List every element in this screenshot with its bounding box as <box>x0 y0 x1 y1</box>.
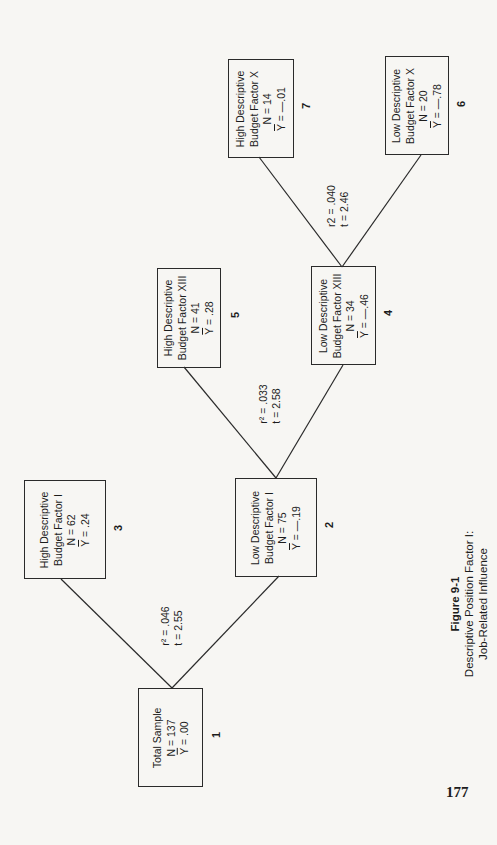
page-number: 177 <box>446 784 469 801</box>
ybar-symbol: Y <box>275 124 287 131</box>
node-2-y: Y = —.19 <box>290 490 304 564</box>
node-1-n: N = 137 <box>164 707 178 768</box>
edge-4-6 <box>342 155 421 267</box>
edge-2-4 <box>276 365 343 478</box>
node-1-y-value: = .00 <box>177 721 189 748</box>
node-3-y: Y = .24 <box>79 491 93 567</box>
node-7-line2: Budget Factor X <box>248 70 262 146</box>
ybar-symbol: Y <box>431 121 443 128</box>
ybar-symbol: Y <box>79 539 91 546</box>
node-3-box: High Descriptive Budget Factor I N = 62 … <box>24 480 106 579</box>
node-7-y-value: = —.01 <box>275 87 287 124</box>
ybar-symbol: Y <box>203 328 215 335</box>
figure-title-line1: Descriptive Position Factor I: <box>462 531 476 677</box>
node-2-number: 2 <box>323 522 335 528</box>
node-5-y: Y = .28 <box>203 276 217 361</box>
node-2-y-value: = —.19 <box>290 506 302 543</box>
node-4-line1: Low Descriptive <box>317 273 331 358</box>
node-2-line1: Low Descriptive <box>249 490 263 564</box>
figure-label: Figure 9-1 <box>448 531 462 677</box>
node-5-box: High Descriptive Budget Factor XIII N = … <box>157 268 221 368</box>
node-6-number: 6 <box>455 101 467 107</box>
node-6-box: Low Descriptive Budget Factor X N = 20 Y… <box>385 56 449 155</box>
node-6-y-value: = —.78 <box>431 84 443 121</box>
node-2-line2: Budget Factor I <box>263 490 277 564</box>
edge-1-3 <box>61 579 172 688</box>
node-4-y: Y = —.46 <box>357 273 371 358</box>
node-4-y-value: = —.46 <box>357 294 369 331</box>
node-2-box: Low Descriptive Budget Factor I N = 75 Y… <box>235 478 317 577</box>
node-4-line2: Budget Factor XIII <box>330 273 344 358</box>
node-1-number: 1 <box>210 732 222 738</box>
split-1-stats: r² = .046 t = 2.55 <box>159 606 185 645</box>
node-7-y: Y = —.01 <box>275 70 289 146</box>
node-1-line1: Total Sample <box>150 707 164 768</box>
node-5-line1: High Descriptive <box>162 276 176 361</box>
node-6-line2: Budget Factor X <box>404 68 418 144</box>
node-5-n: N = 41 <box>189 276 203 361</box>
node-6-y: Y = —.78 <box>431 68 445 144</box>
node-5-line2: Budget Factor XIII <box>176 276 190 361</box>
node-4-box: Low Descriptive Budget Factor XIII N = 3… <box>311 266 376 365</box>
node-2-n: N = 75 <box>276 490 290 564</box>
ybar-symbol: Y <box>357 331 369 338</box>
edge-1-2 <box>172 576 279 688</box>
node-7-number: 7 <box>300 103 312 109</box>
split-1-r2: r² = .046 <box>159 606 172 645</box>
node-3-line2: Budget Factor I <box>52 491 66 567</box>
node-4-number: 4 <box>382 310 394 316</box>
node-3-number: 3 <box>112 525 124 531</box>
node-6-n: N = 20 <box>417 68 431 144</box>
ybar-symbol: Y <box>177 747 189 754</box>
node-1-y: Y = .00 <box>177 707 191 768</box>
split-4-stats: r2 = .040 t = 2.46 <box>325 185 351 227</box>
split-2-r2: r² = .033 <box>257 384 270 423</box>
split-2-t: t = 2.58 <box>270 384 283 423</box>
node-3-n: N = 62 <box>65 491 79 567</box>
figure-caption: Figure 9-1 Descriptive Position Factor I… <box>448 531 490 677</box>
node-4-n: N = 34 <box>344 273 358 358</box>
ybar-symbol: Y <box>290 543 302 550</box>
node-7-box: High Descriptive Budget Factor X N = 14 … <box>228 59 294 158</box>
node-3-y-value: = .24 <box>79 513 91 540</box>
node-7-line1: High Descriptive <box>234 70 248 146</box>
split-4-r2: r2 = .040 <box>325 185 338 227</box>
split-2-stats: r² = .033 t = 2.58 <box>257 384 283 423</box>
node-3-line1: High Descriptive <box>38 491 52 567</box>
diagram-page: High Descriptive Budget Factor X N = 14 … <box>0 0 497 845</box>
figure-title-line2: Job-Related Influence <box>476 531 490 677</box>
node-6-line1: Low Descriptive <box>390 68 404 144</box>
split-4-t: t = 2.46 <box>338 185 351 227</box>
node-1-box: Total Sample N = 137 Y = .00 <box>138 688 203 787</box>
split-1-t: t = 2.55 <box>172 606 185 645</box>
node-7-n: N = 14 <box>261 70 275 146</box>
node-5-number: 5 <box>229 312 241 318</box>
node-5-y-value: = .28 <box>203 301 215 328</box>
